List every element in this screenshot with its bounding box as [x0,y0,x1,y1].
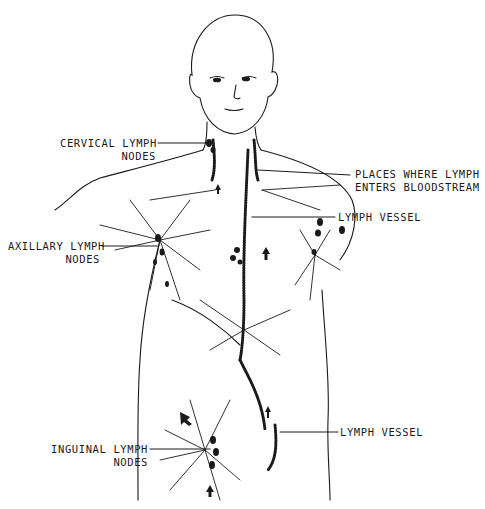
label-cervical-lymph-nodes: CERVICAL LYMPH NODES [60,137,156,163]
label-line: LYMPH VESSEL [338,211,421,224]
label-line: CERVICAL LYMPH [60,137,156,150]
cervical-vessel-left [212,140,214,180]
leader-lines [102,143,350,449]
label-lymph-vessel-lower: LYMPH VESSEL [340,426,423,439]
label-line: NODES [50,456,148,469]
label-inguinal-lymph-nodes: INGUINAL LYMPH NODES [50,443,148,469]
label-line: NODES [60,150,156,163]
neck-left [203,122,207,150]
lymph-vessel-abdomen [240,360,265,430]
label-line: LYMPH VESSEL [340,426,423,439]
cervical-vessel-right [254,140,258,180]
arrow-up-icon [206,485,214,497]
lymph-vessel-thigh [268,425,276,470]
lymphatic-system-diagram: CERVICAL LYMPH NODES PLACES WHERE LYMPH … [0,0,485,509]
label-line: PLACES WHERE LYMPH [355,168,480,181]
label-line: AXILLARY LYMPH [8,240,100,253]
arrow-diagonal-icon [180,412,192,426]
label-line: NODES [8,253,100,266]
label-line: ENTERS BLOODSTREAM [355,181,480,194]
label-axillary-lymph-nodes: AXILLARY LYMPH NODES [8,240,100,266]
label-places-lymph-enters-bloodstream: PLACES WHERE LYMPH ENTERS BLOODSTREAM [355,168,480,194]
label-lymph-vessel-upper: LYMPH VESSEL [338,211,421,224]
arrow-up-icon [262,247,270,260]
right-torso [322,290,330,500]
head-outline [190,15,278,134]
arrow-up-icon [215,184,221,194]
arrow-up-icon [265,406,271,418]
label-line: INGUINAL LYMPH [50,443,148,456]
